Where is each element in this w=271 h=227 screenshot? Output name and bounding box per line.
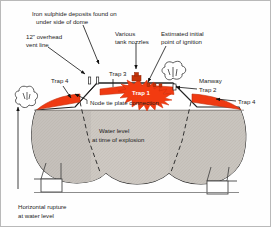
label-node-tie-plate: Node tie plate connection: [90, 99, 159, 106]
label-water-level-line1: Water level: [99, 127, 129, 134]
vent-line-stub-icon: [89, 77, 99, 84]
label-manway-line2: Trap 2: [199, 86, 217, 93]
label-ignition-line2: point of ignition: [161, 38, 202, 45]
label-trap-4-right: Trap 4: [238, 98, 256, 105]
label-ignition-line1: Estimated initial: [161, 30, 204, 37]
label-water-level-line2: at time of explosion: [92, 136, 145, 143]
diagram-frame: Iron sulphide deposits found on under si…: [0, 0, 271, 227]
label-iron-sulphide-line2: under side of dome: [36, 18, 89, 25]
label-trap-4-left: Trap 4: [51, 77, 69, 84]
smoke-plume-icon-right: [162, 61, 186, 80]
label-iron-sulphide-line1: Iron sulphide deposits found on: [32, 10, 117, 17]
tank-explosion-diagram: Iron sulphide deposits found on under si…: [1, 1, 271, 227]
smoke-plume-icon-left: [15, 86, 37, 107]
label-trap-1: Trap 1: [132, 89, 151, 96]
tank-nozzle-icon: [132, 73, 141, 82]
label-rupture-line2: at water level: [18, 212, 54, 219]
label-rupture-line1: Horizontal rupture: [18, 203, 67, 210]
label-vent-line1: 12" overhead: [26, 33, 62, 40]
label-nozzles-line2: tank nozzles: [115, 38, 149, 45]
manway-stub-icon: [173, 84, 176, 90]
label-vent-line2: vent line: [26, 41, 49, 48]
label-nozzles-line1: Various: [115, 30, 135, 37]
label-trap-3: Trap 3: [109, 70, 127, 77]
label-manway-line1: Manway: [199, 77, 223, 84]
